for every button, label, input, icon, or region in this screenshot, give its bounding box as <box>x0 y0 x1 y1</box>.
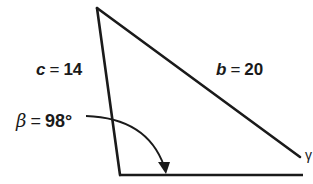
partial-gamma-label: γ <box>305 148 312 162</box>
angle-beta-label: β=98° <box>16 112 72 130</box>
side-c-value: 14 <box>63 60 82 79</box>
arrowhead-icon <box>158 162 170 174</box>
angle-arc <box>86 116 164 166</box>
side-b-equals: = <box>230 60 240 79</box>
side-c-equals: = <box>49 60 59 79</box>
side-c-variable: c <box>36 60 45 79</box>
triangle-diagram: c=14 b=20 β=98° γ <box>0 0 313 184</box>
side-c-label: c=14 <box>36 61 82 78</box>
angle-beta-equals: = <box>30 111 41 131</box>
side-b-line <box>97 8 300 157</box>
side-b-value: 20 <box>244 60 263 79</box>
angle-beta-value: 98° <box>45 111 72 131</box>
side-b-label: b=20 <box>216 61 263 78</box>
angle-beta-variable: β <box>16 110 26 131</box>
side-b-variable: b <box>216 60 226 79</box>
triangle-figure <box>0 0 313 184</box>
side-c-line <box>97 8 120 175</box>
